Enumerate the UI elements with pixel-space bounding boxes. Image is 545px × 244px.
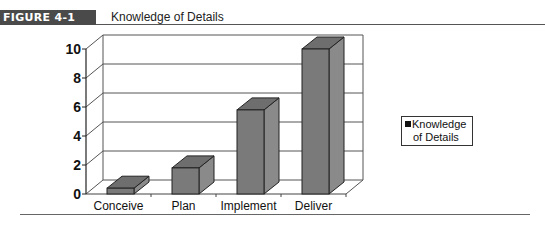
x-axis-labels: ConceivePlanImplementDeliver bbox=[93, 199, 332, 213]
svg-text:Deliver: Deliver bbox=[295, 199, 332, 213]
svg-text:2: 2 bbox=[73, 157, 81, 173]
svg-text:4: 4 bbox=[73, 128, 81, 144]
bottom-rule bbox=[20, 214, 530, 215]
svg-text:10: 10 bbox=[65, 41, 81, 57]
legend: Knowledge of Details bbox=[401, 116, 473, 146]
legend-swatch bbox=[405, 121, 411, 127]
bars bbox=[107, 37, 344, 194]
svg-text:6: 6 bbox=[73, 99, 81, 115]
svg-text:Plan: Plan bbox=[171, 199, 195, 213]
svg-text:Implement: Implement bbox=[220, 199, 277, 213]
svg-text:Conceive: Conceive bbox=[93, 199, 143, 213]
legend-label-line1: Knowledge bbox=[412, 118, 466, 130]
y-axis-labels: 0246810 bbox=[65, 41, 81, 202]
legend-label-line2: of Details bbox=[413, 131, 459, 143]
svg-text:0: 0 bbox=[73, 186, 81, 202]
svg-text:8: 8 bbox=[73, 70, 81, 86]
